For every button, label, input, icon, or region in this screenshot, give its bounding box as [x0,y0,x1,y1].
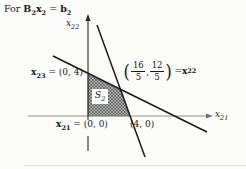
close-paren: ) [166,58,172,84]
x22-axis-arrow-icon [85,14,90,21]
title-prefix: For [4,3,23,14]
fraction-16-5: 16 5 [131,61,145,82]
region-s2-text: S2 [95,89,106,105]
point-label-4-0: (4, 0) [130,119,154,130]
open-paren: ( [124,58,130,84]
title-vector-b: b [60,3,67,14]
point-label-x22: ( 16 5 , 12 5 ) = x22 [123,58,196,84]
region-label-s2: S2 [92,89,108,104]
x21-axis-arrow-icon [206,113,213,118]
figure-feasible-region-diagram: For B2x2 = b2 x22 x21 x23 = (0, 4) x21 =… [0,0,246,169]
point-label-x23: x23 = (0, 4) [31,67,83,82]
point-label-origin: x21 = (0, 0) [56,119,108,134]
diagram-canvas [0,0,246,169]
figure-title: For B2x2 = b2 [4,3,71,19]
fraction-12-5: 12 5 [150,61,164,82]
x22-axis-label: x22 [66,18,79,33]
x21-axis-label: x21 [215,109,228,124]
